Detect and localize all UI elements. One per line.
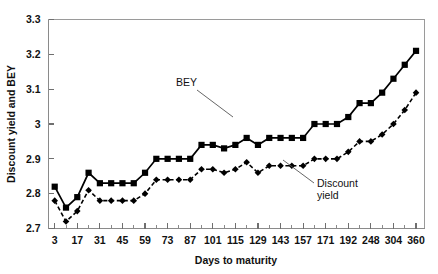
- marker-diamond: [277, 163, 284, 170]
- annotation-discount-label-line1: Discount: [317, 177, 358, 189]
- marker-diamond: [322, 156, 329, 163]
- marker-square: [345, 114, 351, 120]
- marker-square: [52, 184, 58, 190]
- x-tick-label: 157: [294, 234, 312, 246]
- series-layer: [51, 48, 419, 225]
- x-tick-label: 59: [139, 234, 151, 246]
- x-tick-label: 115: [227, 234, 244, 246]
- marker-diamond: [119, 197, 126, 204]
- marker-diamond: [142, 190, 149, 197]
- x-tick-label: 73: [162, 234, 174, 246]
- marker-diamond: [63, 218, 70, 225]
- marker-square: [232, 142, 238, 148]
- x-tick-label: 31: [94, 234, 106, 246]
- x-tick-label: 45: [117, 234, 129, 246]
- marker-square: [244, 135, 250, 141]
- marker-square: [356, 100, 362, 106]
- marker-square: [97, 180, 103, 186]
- marker-square: [210, 142, 216, 148]
- marker-diamond: [221, 169, 228, 176]
- marker-square: [153, 156, 159, 162]
- chart-svg: 2.72.82.933.13.23.3 31731455973871011151…: [0, 0, 438, 274]
- marker-square: [402, 62, 408, 68]
- marker-diamond: [176, 176, 183, 183]
- marker-square: [142, 170, 148, 176]
- marker-square: [266, 135, 272, 141]
- marker-diamond: [209, 166, 216, 173]
- marker-square: [85, 170, 91, 176]
- marker-square: [176, 156, 182, 162]
- y-tick-label: 3.3: [26, 13, 41, 25]
- y-tick-label: 3.2: [26, 48, 41, 60]
- plot-frame: [48, 20, 425, 229]
- annotation-bey: BEY: [176, 76, 233, 117]
- marker-square: [277, 135, 283, 141]
- marker-square: [300, 135, 306, 141]
- marker-square: [311, 121, 317, 127]
- marker-square: [334, 121, 340, 127]
- annotation-discount-label-line2: yield: [317, 189, 339, 201]
- marker-square: [74, 194, 80, 200]
- annotation-bey-label: BEY: [176, 76, 197, 88]
- x-tick-label: 17: [71, 234, 83, 246]
- x-axis-ticks: [55, 223, 416, 229]
- marker-diamond: [243, 159, 250, 166]
- marker-diamond: [232, 166, 239, 173]
- chart-container: 2.72.82.933.13.23.3 31731455973871011151…: [0, 0, 438, 274]
- x-tick-label: 360: [407, 234, 425, 246]
- marker-square: [323, 121, 329, 127]
- x-axis-tick-labels: 3173145597387101115129143157171192248304…: [52, 234, 425, 246]
- x-tick-label: 101: [204, 234, 222, 246]
- marker-diamond: [164, 176, 171, 183]
- marker-square: [63, 205, 69, 211]
- marker-square: [165, 156, 171, 162]
- y-tick-label: 2.8: [26, 187, 41, 199]
- y-axis-tick-labels: 2.72.82.933.13.23.3: [26, 13, 41, 234]
- x-tick-label: 129: [249, 234, 267, 246]
- y-axis-title: Discount yield and BEY: [5, 65, 17, 183]
- y-axis-ticks: [49, 20, 54, 229]
- marker-diamond: [130, 197, 137, 204]
- marker-square: [255, 142, 261, 148]
- marker-square: [368, 100, 374, 106]
- y-tick-label: 2.9: [26, 153, 41, 165]
- marker-diamond: [198, 166, 205, 173]
- x-tick-label: 87: [184, 234, 196, 246]
- marker-square: [221, 145, 227, 151]
- marker-square: [379, 90, 385, 96]
- marker-square: [198, 142, 204, 148]
- y-tick-label: 3: [35, 118, 41, 130]
- marker-diamond: [51, 197, 58, 204]
- marker-square: [413, 48, 419, 54]
- marker-diamond: [108, 197, 115, 204]
- y-tick-label: 3.1: [26, 83, 41, 95]
- x-tick-label: 248: [362, 234, 380, 246]
- marker-square: [187, 156, 193, 162]
- marker-square: [108, 180, 114, 186]
- x-tick-label: 192: [340, 234, 358, 246]
- marker-square: [289, 135, 295, 141]
- series-path: [55, 93, 416, 222]
- x-tick-label: 171: [317, 234, 335, 246]
- x-axis-title: Days to maturity: [195, 254, 277, 266]
- y-tick-label: 2.7: [26, 222, 41, 234]
- series-discount-yield: [51, 89, 419, 224]
- series-bey: [52, 48, 420, 211]
- x-tick-label: 143: [272, 234, 290, 246]
- marker-square: [119, 180, 125, 186]
- x-tick-label: 3: [52, 234, 58, 246]
- marker-diamond: [85, 187, 92, 194]
- x-tick-label: 304: [385, 234, 403, 246]
- marker-square: [131, 180, 137, 186]
- marker-square: [390, 76, 396, 82]
